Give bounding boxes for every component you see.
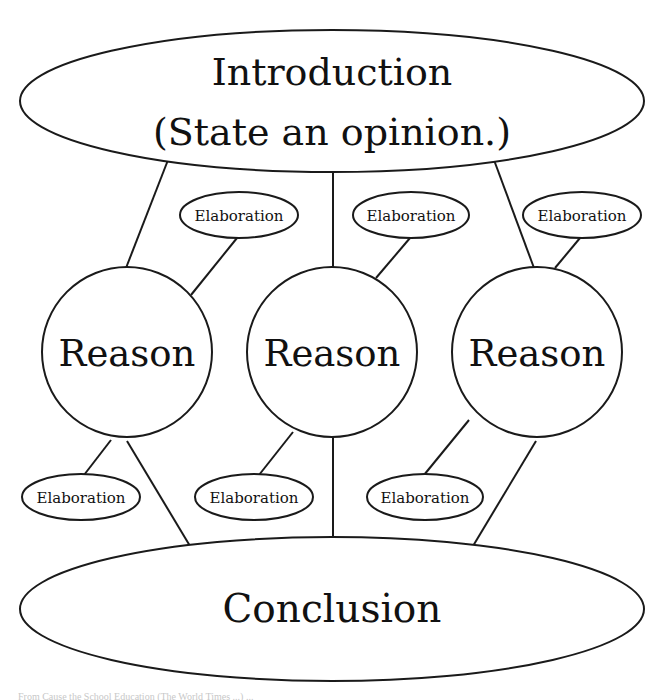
introduction-subtitle: (State an opinion.): [153, 110, 511, 154]
reason-label: Reason: [264, 332, 401, 375]
elaboration-label: Elaboration: [367, 207, 456, 225]
connector-reason-3-elab-bottom: [424, 420, 469, 475]
elaboration-node-bottom-1: Elaboration: [22, 474, 140, 520]
elaboration-label: Elaboration: [210, 489, 299, 507]
elaboration-label: Elaboration: [538, 207, 627, 225]
reason-node-1: Reason: [42, 267, 212, 437]
introduction-node: Introduction (State an opinion.): [20, 30, 644, 172]
connector-reason-2-elab-top: [376, 238, 410, 278]
conclusion-label: Conclusion: [223, 586, 442, 631]
elaboration-node-bottom-3: Elaboration: [367, 474, 483, 520]
elaboration-label: Elaboration: [37, 489, 126, 507]
connector-reason-1-elab-top: [191, 238, 237, 295]
reason-label: Reason: [469, 332, 606, 375]
connector-reason-1-elab-bottom: [84, 440, 111, 475]
connector-intro-reason-1: [126, 160, 168, 268]
introduction-title: Introduction: [212, 50, 453, 94]
connector-reason-3-elab-top: [555, 238, 580, 268]
elaboration-label: Elaboration: [381, 489, 470, 507]
elaboration-node-bottom-2: Elaboration: [195, 474, 313, 520]
elaboration-node-top-2: Elaboration: [353, 192, 469, 238]
elaboration-node-top-1: Elaboration: [180, 192, 298, 238]
elaboration-node-top-3: Elaboration: [523, 192, 641, 238]
source-caption: From Cause the School Education (The Wor…: [18, 691, 658, 700]
reason-node-2: Reason: [247, 267, 417, 437]
conclusion-node: Conclusion: [20, 537, 644, 681]
connector-reason-2-elab-bottom: [259, 432, 293, 475]
elaboration-label: Elaboration: [195, 207, 284, 225]
reason-label: Reason: [59, 332, 196, 375]
reason-node-3: Reason: [452, 267, 622, 437]
essay-diagram: Introduction (State an opinion.) Elabora…: [0, 0, 664, 700]
